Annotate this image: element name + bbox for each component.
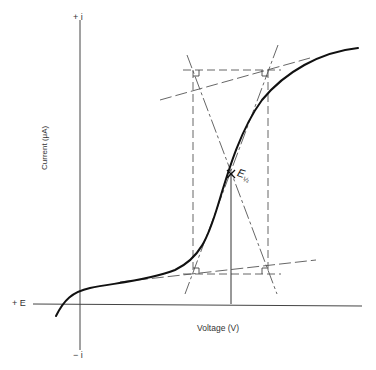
construction-rectangle <box>183 70 281 274</box>
polarogram-diagram <box>0 0 376 370</box>
y-axis-title: Current (μA) <box>40 126 49 170</box>
polarographic-curve <box>56 48 358 316</box>
y-positive-label: + i <box>73 12 83 22</box>
x-axis-title: Voltage (V) <box>197 323 239 333</box>
x-positive-label: + E <box>12 298 26 308</box>
x-axis <box>33 304 362 306</box>
tangent-lines <box>120 58 316 282</box>
y-negative-label: − i <box>73 350 83 360</box>
